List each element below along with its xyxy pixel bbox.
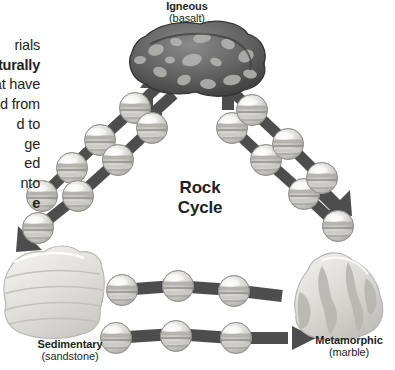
side-caption-text: rialsaturallyat haved fromd togeedntoe: [0, 36, 40, 213]
label-sedimentary: Sedimentary (sandstone): [0, 338, 144, 363]
side-caption-line: at have: [0, 75, 40, 95]
label-igneous: Igneous (basalt): [126, 0, 248, 25]
bead: [306, 163, 338, 194]
label-sedimentary-name: Sedimentary: [0, 338, 144, 350]
side-caption-line: d from: [0, 95, 40, 115]
bead: [56, 153, 88, 184]
side-caption-line: ed: [0, 154, 40, 174]
center-title-line1: Rock: [148, 178, 252, 198]
rock-igneous: [130, 21, 266, 96]
bead: [218, 276, 250, 307]
bead: [162, 271, 194, 302]
side-caption-line: nto: [0, 174, 40, 194]
side-caption-line: aturally: [0, 56, 40, 76]
rock-cycle-diagram: Igneous (basalt) Sedimentary (sandstone)…: [0, 0, 395, 370]
label-metamorphic-name: Metamorphic: [288, 334, 395, 346]
rock-sedimentary: [4, 246, 104, 339]
label-sedimentary-rock: (sandstone): [0, 350, 144, 362]
bead: [106, 275, 138, 306]
bead: [136, 113, 168, 144]
side-caption-line: d to: [0, 115, 40, 135]
bead: [236, 95, 268, 126]
bead: [272, 129, 304, 160]
label-igneous-rock: (basalt): [126, 12, 248, 24]
bead: [22, 213, 54, 244]
bead: [220, 323, 252, 354]
label-igneous-name: Igneous: [126, 0, 248, 12]
page-title: Rock Cycle: [148, 178, 252, 217]
bead: [102, 145, 134, 176]
bead: [322, 211, 354, 242]
bead: [62, 181, 94, 212]
center-title-line2: Cycle: [148, 198, 252, 218]
label-metamorphic: Metamorphic (marble): [288, 334, 395, 359]
side-caption-line: ge: [0, 135, 40, 155]
rock-metamorphic: [295, 253, 383, 340]
side-caption-line: e: [0, 194, 40, 214]
bead: [160, 321, 192, 352]
side-caption-line: rials: [0, 36, 40, 56]
label-metamorphic-rock: (marble): [288, 346, 395, 358]
